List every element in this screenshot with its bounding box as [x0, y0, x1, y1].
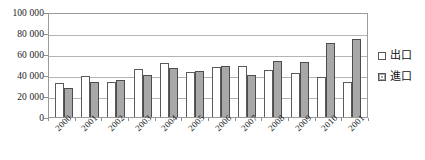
- y-axis-tick-label: 100 000: [12, 8, 44, 18]
- bar-import[interactable]: [169, 68, 178, 117]
- bar-export[interactable]: [107, 82, 116, 117]
- x-axis-labels: 2000200120022003200420052006200720082009…: [48, 118, 368, 160]
- bar-chart: 100 00080 00060 00040 00020 0000 2000200…: [0, 0, 425, 160]
- bar-group: [234, 14, 260, 117]
- bar-group: [287, 14, 313, 117]
- legend-item-import[interactable]: 進口: [378, 71, 424, 83]
- bar-export[interactable]: [134, 69, 143, 117]
- bar-export[interactable]: [238, 66, 247, 117]
- bar-export[interactable]: [317, 77, 326, 117]
- filled-square-icon: [378, 73, 386, 81]
- bar-export[interactable]: [264, 70, 273, 117]
- bar-import[interactable]: [195, 71, 204, 117]
- bar-export[interactable]: [343, 82, 352, 117]
- legend-label-export: 出口: [390, 50, 412, 62]
- bar-import[interactable]: [300, 62, 309, 117]
- chart-legend: 出口 進口: [378, 50, 424, 92]
- bar-group: [77, 14, 103, 117]
- bar-export[interactable]: [212, 67, 221, 117]
- bar-export[interactable]: [186, 72, 195, 117]
- bar-import[interactable]: [326, 43, 335, 117]
- bar-group: [339, 14, 365, 117]
- bar-group: [260, 14, 286, 117]
- bar-import[interactable]: [273, 61, 282, 117]
- bar-group: [313, 14, 339, 117]
- bar-import[interactable]: [247, 75, 256, 118]
- bar-group: [208, 14, 234, 117]
- bar-import[interactable]: [116, 80, 125, 117]
- y-axis-tick-label: 40 000: [17, 71, 44, 81]
- bar-group: [156, 14, 182, 117]
- x-axis-tick: [368, 118, 369, 121]
- y-axis-tick-label: 20 000: [17, 92, 44, 102]
- bar-export[interactable]: [291, 73, 300, 117]
- hollow-square-icon: [378, 52, 386, 60]
- y-axis-tick-label: 60 000: [17, 50, 44, 60]
- bar-groups: [49, 14, 367, 117]
- bar-import[interactable]: [221, 66, 230, 117]
- bar-group: [103, 14, 129, 117]
- bar-group: [51, 14, 77, 117]
- bar-group: [182, 14, 208, 117]
- plot-area: [48, 13, 368, 118]
- legend-item-export[interactable]: 出口: [378, 50, 424, 62]
- bar-export[interactable]: [81, 76, 90, 118]
- bar-export[interactable]: [160, 63, 169, 117]
- bar-import[interactable]: [352, 39, 361, 117]
- bar-import[interactable]: [143, 75, 152, 117]
- bar-group: [130, 14, 156, 117]
- bar-export[interactable]: [55, 83, 64, 117]
- legend-label-import: 進口: [390, 71, 412, 83]
- y-axis-tick-label: 80 000: [17, 29, 44, 39]
